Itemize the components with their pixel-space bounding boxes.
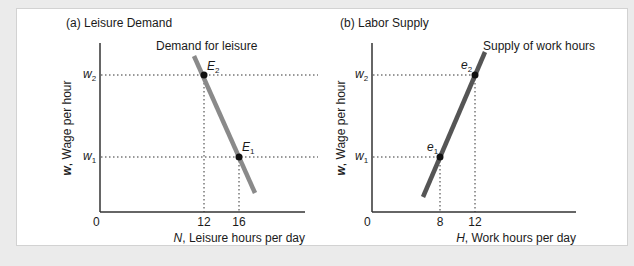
panel-a-title: (a) Leisure Demand xyxy=(66,16,172,30)
point-e2-label: E2 xyxy=(207,59,220,75)
supply-curve-label: Supply of work hours xyxy=(483,39,595,53)
panel-a-y-axis-label: w, Wage per hour xyxy=(60,81,74,176)
panel-b-y-axis-label: w, Wage per hour xyxy=(334,81,348,176)
panel-b-title: (b) Labor Supply xyxy=(340,16,429,30)
demand-curve-label: Demand for leisure xyxy=(156,39,258,53)
figure-svg: (a) Leisure Demand w, Wage per hour w2 w… xyxy=(0,0,634,266)
panel-b-xtick-12: 12 xyxy=(468,215,482,229)
panel-a-w1-label: w1 xyxy=(83,149,97,165)
panel-b-w2-label: w2 xyxy=(355,67,369,83)
panel-b-origin-label: 0 xyxy=(364,215,371,229)
chart-labor-supply: (b) Labor Supply w, Wage per hour w2 w1 … xyxy=(334,16,595,245)
point-e1 xyxy=(236,154,243,161)
panel-a-xtick-12: 12 xyxy=(197,215,211,229)
point-e2-lower-label: e2 xyxy=(461,58,473,74)
panel-b-x-axis-label: H, Work hours per day xyxy=(456,231,576,245)
panel-a-w2-label: w2 xyxy=(83,67,97,83)
panel-a-x-axis-label: N, Leisure hours per day xyxy=(174,231,305,245)
panel-a-origin-label: 0 xyxy=(93,215,100,229)
point-e1-label: E1 xyxy=(242,140,255,156)
point-e1-lower-label: e1 xyxy=(427,140,439,156)
panel-b-xtick-8: 8 xyxy=(437,215,444,229)
chart-leisure-demand: (a) Leisure Demand w, Wage per hour w2 w… xyxy=(60,16,318,245)
point-e2-lower xyxy=(472,72,479,79)
panel-a-xtick-16: 16 xyxy=(232,215,246,229)
panel-b-w1-label: w1 xyxy=(355,149,369,165)
